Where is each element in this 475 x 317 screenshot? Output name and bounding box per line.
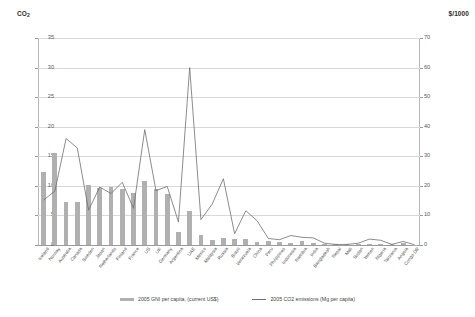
right-tick-label: 0 [424,242,464,248]
category-label: UK [155,247,163,255]
line-series [38,38,420,245]
category-label: US [144,247,152,255]
chart-container: CO2 $/1000 05101520253035 01020304050607… [0,0,475,317]
legend-line-swatch [252,299,266,300]
right-tick-mark [420,215,423,216]
legend-label-gni: 2005 GNI per capita, (current US$) [138,296,218,302]
right-tick-mark [420,68,423,69]
right-tick-label: 30 [424,153,464,159]
legend-label-co2: 2005 CO2 emissions (Mg per capita) [270,296,354,302]
right-tick-mark [420,38,423,39]
right-tick-label: 40 [424,124,464,130]
category-label: Yemen [364,247,376,261]
legend-item-co2: 2005 CO2 emissions (Mg per capita) [252,296,354,302]
right-tick-mark [420,97,423,98]
left-axis-caption-main: CO [17,10,27,17]
left-axis-caption-subscript: 2 [27,12,30,18]
right-tick-label: 70 [424,35,464,41]
right-tick-mark [420,186,423,187]
x-axis-line [38,245,420,246]
right-tick-label: 10 [424,212,464,218]
legend-item-gni: 2005 GNI per capita, (current US$) [120,296,218,302]
legend-bar-swatch [120,298,134,301]
right-tick-mark [420,156,423,157]
category-labels: IcelandNorwayAustraliaCanadaSwedenJapanN… [38,247,420,295]
category-label: Nepal [331,247,342,259]
left-axis-caption: CO2 [17,10,30,18]
right-tick-label: 60 [424,65,464,71]
category-label: France [128,247,140,261]
left-tick-mark [35,245,38,246]
category-label: China [253,247,264,259]
right-tick-label: 20 [424,183,464,189]
chart-legend: 2005 GNI per capita, (current US$) 2005 … [0,296,475,302]
right-tick-label: 50 [424,94,464,100]
right-tick-mark [420,127,423,128]
right-axis-caption: $/1000 [449,10,469,17]
category-label: Russia [218,247,230,261]
right-tick-mark [420,245,423,246]
